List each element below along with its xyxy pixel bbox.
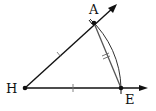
ray-he-arrow-icon [139, 85, 148, 91]
label-a: A [88, 2, 99, 17]
label-e: E [125, 92, 135, 107]
point-e [119, 86, 124, 91]
diagram-canvas: H A E [0, 0, 156, 111]
segment-ae [94, 23, 121, 88]
point-h [23, 86, 28, 91]
label-h: H [6, 81, 17, 96]
point-a [92, 21, 97, 26]
ray-ha [25, 7, 114, 88]
